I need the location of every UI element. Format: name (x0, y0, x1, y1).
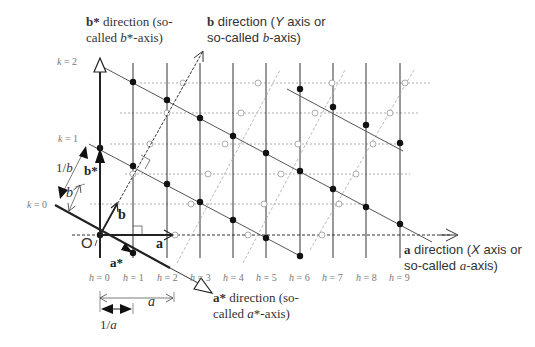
vector-astar-label: a* (110, 255, 123, 271)
right-angle-marker (133, 226, 142, 235)
k-label-2: k = 2 (57, 56, 77, 67)
b-direction-label: b direction (Y axis or so-called b-axis) (207, 14, 326, 46)
right-angle-marker (141, 155, 150, 169)
k-lines (55, 67, 432, 268)
k-label-0: k = 0 (27, 199, 47, 210)
h-label-8: h = 8 (356, 272, 377, 283)
dim-one-over-b-label: 1/b (56, 160, 73, 176)
b-vector (100, 204, 117, 235)
vector-bstar-label: b* (84, 163, 98, 179)
h-lines (133, 63, 400, 258)
vector-a-label: a (156, 236, 163, 252)
h-label-2: h = 2 (157, 272, 178, 283)
b-axis-arrowhead (194, 51, 203, 62)
lattice-diagram: b* direction (so- called b*-axis) b dire… (0, 0, 535, 347)
dim-b-label: b (66, 185, 73, 201)
b-parallel-lines (177, 68, 415, 263)
dim-one-over-a-label: 1/a (100, 317, 117, 333)
h-label-9: h = 9 (389, 272, 410, 283)
h-label-0: h = 0 (89, 272, 110, 283)
a-direction-label: a direction (X axis or so-called a-axis) (404, 242, 522, 274)
h-label-1: h = 1 (123, 272, 144, 283)
k-label-1: k = 1 (58, 133, 78, 144)
lattice-points (97, 79, 403, 259)
bstar-vector-arrowhead (95, 148, 105, 163)
h-label-4: h = 4 (223, 272, 244, 283)
h-label-3: h = 3 (190, 272, 211, 283)
astar-direction-label: a* direction (so- called a*-axis) (213, 290, 299, 322)
bstar-axis-arrowhead (94, 58, 106, 72)
h-label-5: h = 5 (256, 272, 277, 283)
bstar-direction-label: b* direction (so- called b*-axis) (86, 14, 173, 46)
dim-a-label: a (148, 294, 155, 310)
origin-label: O (81, 234, 93, 251)
vector-b-label: b (118, 207, 126, 223)
h-label-7: h = 7 (322, 272, 343, 283)
h-label-6: h = 6 (289, 272, 310, 283)
